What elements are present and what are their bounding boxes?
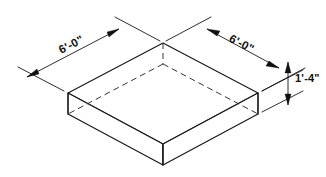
ext-line-left-b (115, 17, 160, 41)
ext-line-right-a (166, 17, 211, 41)
dim-label-right-width: 6'-0" (227, 32, 256, 55)
ext-line-thickness-bottom (262, 91, 303, 112)
technical-drawing-canvas: 6'-0" 6'-0" (0, 0, 326, 177)
dim-label-left-width: 6'-0" (57, 33, 86, 56)
ext-line-left-a (18, 67, 64, 91)
dim-label-thickness: 1'-4" (295, 72, 320, 84)
arrowhead-left-upper (107, 29, 119, 37)
arrowhead-thickness-top (285, 62, 291, 73)
slab-solid-body (68, 43, 258, 165)
dimension-thickness: 1'-4" (262, 62, 320, 112)
isometric-slab-drawing: 6'-0" 6'-0" (0, 0, 326, 177)
